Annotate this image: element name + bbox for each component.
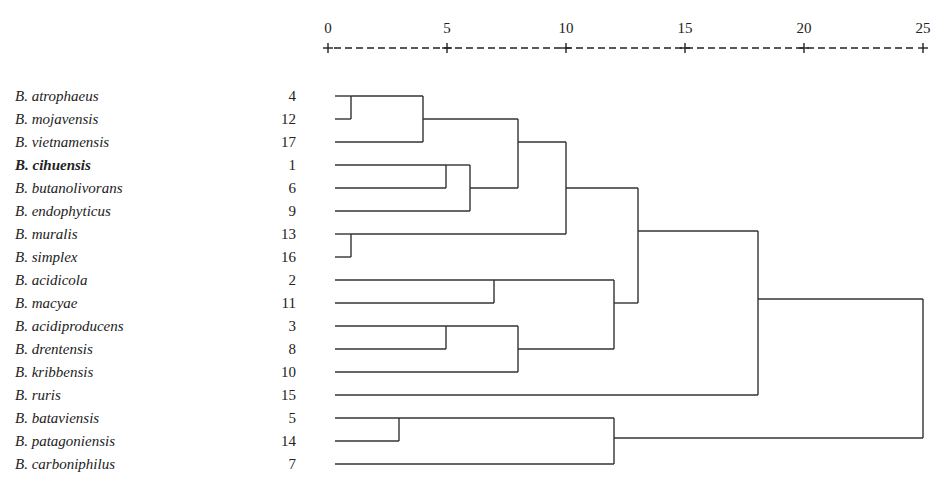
species-label: B. acidiproducens (15, 318, 124, 334)
case-number: 3 (289, 318, 297, 334)
species-label: B. acidicola (15, 272, 87, 288)
axis-tick-label: 5 (443, 20, 451, 36)
axis-tick-label: 0 (324, 20, 332, 36)
species-label: B. muralis (15, 226, 78, 242)
case-number: 10 (281, 364, 296, 380)
species-label: B. vietnamensis (15, 134, 109, 150)
case-number: 2 (289, 272, 297, 288)
axis-tick-label: 10 (559, 20, 574, 36)
species-label: B. kribbensis (15, 364, 93, 380)
case-number: 16 (281, 249, 297, 265)
axis-tick-label: 15 (678, 20, 693, 36)
distance-axis: 0510152025 (323, 20, 931, 53)
case-number: 8 (289, 341, 297, 357)
case-number: 1 (289, 157, 297, 173)
axis-tick-label: 20 (797, 20, 812, 36)
case-number: 7 (289, 456, 297, 472)
case-number: 11 (282, 295, 296, 311)
leaf-labels: B. atrophaeus4B. mojavensis12B. vietname… (14, 88, 297, 472)
species-label: B. butanolivorans (15, 180, 123, 196)
species-label: B. patagoniensis (15, 433, 115, 449)
case-number: 14 (281, 433, 297, 449)
case-number: 6 (289, 180, 297, 196)
case-number: 13 (281, 226, 296, 242)
species-label: B. drentensis (15, 341, 93, 357)
axis-tick-label: 25 (916, 20, 931, 36)
species-label: B. cihuensis (14, 157, 91, 173)
species-label: B. mojavensis (15, 111, 98, 127)
case-number: 17 (281, 134, 297, 150)
species-label: B. endophyticus (15, 203, 111, 219)
species-label: B. carboniphilus (15, 456, 115, 472)
species-label: B. bataviensis (15, 410, 99, 426)
case-number: 15 (281, 387, 296, 403)
case-number: 4 (289, 88, 297, 104)
case-number: 12 (281, 111, 296, 127)
case-number: 5 (289, 410, 297, 426)
case-number: 9 (289, 203, 297, 219)
dendrogram-branches (335, 96, 923, 464)
species-label: B. ruris (15, 387, 61, 403)
species-label: B. macyae (15, 295, 78, 311)
species-label: B. simplex (15, 249, 78, 265)
species-label: B. atrophaeus (15, 88, 99, 104)
dendrogram: 0510152025 B. atrophaeus4B. mojavensis12… (0, 0, 951, 487)
